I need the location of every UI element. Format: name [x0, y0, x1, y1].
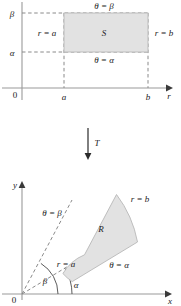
top-edge-label-theta-alpha: θ = α: [94, 55, 114, 65]
bottom-edge-label-theta-beta: θ = β: [42, 208, 62, 218]
polar-transformation-figure: 0 a b r α β S θ = β θ = α r = a r = b T: [0, 0, 181, 306]
bottom-y-axis-arrowhead: [19, 181, 26, 188]
bottom-edge-label-r-a: r = a: [57, 259, 76, 269]
transform-arrow-head: [85, 153, 92, 160]
top-edge-label-theta-beta: θ = β: [94, 1, 114, 11]
top-edge-label-r-b: r = b: [155, 28, 174, 38]
top-origin-label: 0: [13, 90, 18, 100]
transform-label: T: [94, 138, 100, 148]
top-tick-alpha: α: [10, 48, 15, 58]
angle-label-alpha: α: [74, 280, 79, 290]
bottom-y-axis-label: y: [12, 180, 17, 190]
top-edge-label-r-a: r = a: [38, 28, 57, 38]
angle-label-beta: β: [42, 276, 48, 286]
bottom-origin-label: 0: [12, 295, 17, 305]
bottom-edge-label-r-b: r = b: [131, 194, 150, 204]
bottom-x-axis-label: x: [167, 296, 172, 306]
region-r-label: R: [97, 224, 104, 234]
bottom-edge-label-theta-alpha: θ = α: [109, 260, 129, 270]
top-x-axis-label: r: [167, 91, 171, 101]
region-s-label: S: [102, 28, 107, 38]
transform-arrow-group: T: [85, 128, 101, 160]
top-tick-beta: β: [9, 9, 15, 19]
top-tick-b: b: [146, 92, 151, 102]
bottom-panel: R θ = β r = b r = a θ = α β α 0 y x: [2, 180, 172, 306]
top-panel: 0 a b r α β S θ = β θ = α r = a r = b: [2, 1, 174, 102]
top-tick-a: a: [62, 92, 67, 102]
